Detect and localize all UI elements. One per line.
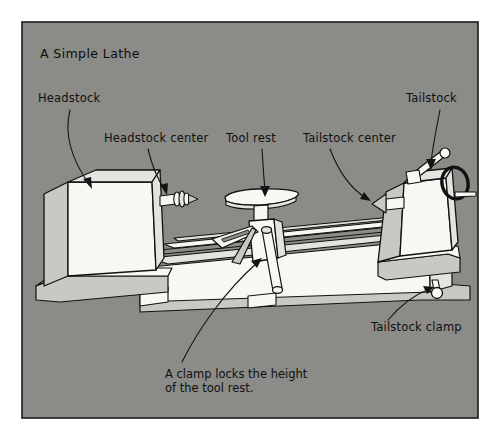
- label-tailstock-clamp: Tailstock clamp: [370, 320, 462, 334]
- lathe-diagram-figure: A Simple Lathe Headstock Headstock cente…: [0, 0, 501, 440]
- headstock-collar-3: [184, 193, 189, 205]
- headstock-front-face: [68, 182, 156, 276]
- tailstock-lever-foot: [406, 170, 421, 184]
- label-headstock: Headstock: [38, 91, 101, 105]
- label-tailstock: Tailstock: [405, 91, 457, 105]
- headstock: [36, 170, 172, 302]
- handwheel-spoke: [455, 192, 476, 197]
- label-tool-rest: Tool rest: [225, 131, 276, 145]
- label-headstock-center: Headstock center: [104, 131, 209, 145]
- headstock-left-face: [44, 182, 68, 286]
- label-tailstock-center: Tailstock center: [302, 131, 396, 145]
- tailstock-clamp-knob: [432, 288, 443, 299]
- diagram-canvas: A Simple Lathe Headstock Headstock cente…: [0, 0, 501, 440]
- bed-foot-center: [248, 293, 276, 308]
- note-tool-rest-line2: of the tool rest.: [165, 381, 253, 395]
- note-tool-rest-line1: A clamp locks the height: [165, 367, 308, 381]
- tailstock-quill: [386, 197, 404, 210]
- figure-title: A Simple Lathe: [40, 46, 140, 61]
- clamp-lever-pivot: [262, 227, 272, 234]
- clamp-lever-knob: [273, 287, 283, 294]
- tailstock-lever-knob: [440, 148, 450, 158]
